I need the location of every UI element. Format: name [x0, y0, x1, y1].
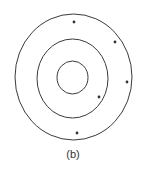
dot-3 — [126, 81, 129, 84]
ring-outer — [15, 14, 132, 140]
concentric-rings-diagram — [0, 0, 141, 169]
dot-1 — [73, 21, 76, 24]
dot-4 — [98, 96, 101, 99]
figure-caption: (b) — [0, 148, 141, 160]
ring-inner — [57, 61, 88, 94]
dot-2 — [114, 41, 117, 44]
dot-5 — [76, 132, 79, 135]
ring-middle — [37, 39, 108, 118]
